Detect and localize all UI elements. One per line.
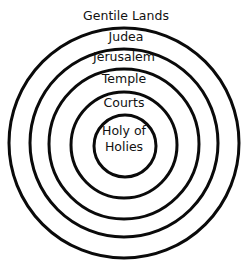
label-gentile-lands: Gentile Lands: [83, 8, 169, 23]
label-jerusalem: Jerusalem: [92, 49, 155, 64]
concentric-circles-diagram: Gentile Lands Judea Jerusalem Temple Cou…: [0, 0, 250, 277]
label-holies: Holies: [105, 139, 143, 154]
label-judea: Judea: [108, 29, 144, 44]
label-temple: Temple: [101, 71, 147, 86]
label-courts: Courts: [104, 95, 145, 110]
label-holy-of: Holy of: [102, 123, 147, 138]
